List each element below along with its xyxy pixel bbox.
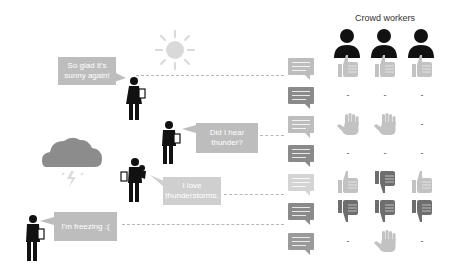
chat-message-icon bbox=[288, 145, 314, 162]
thumbs-up-icon bbox=[409, 53, 435, 79]
person-icon-1 bbox=[122, 76, 148, 121]
open-hand-icon bbox=[372, 228, 398, 254]
sun-icon bbox=[153, 28, 197, 72]
chat-message-icon bbox=[288, 87, 314, 104]
person-icon-2 bbox=[158, 120, 184, 165]
no-vote-dash: - bbox=[409, 140, 435, 166]
speech-bubble-3: I lovethunderstorms. bbox=[163, 177, 221, 205]
connector-line-4 bbox=[122, 224, 284, 225]
no-vote-dash: - bbox=[335, 82, 361, 108]
thumbs-up-icon bbox=[335, 169, 361, 195]
thumbs-up-icon bbox=[372, 53, 398, 79]
no-vote-dash: - bbox=[335, 228, 361, 254]
connector-line-3 bbox=[224, 194, 284, 195]
chat-message-icon bbox=[288, 174, 314, 191]
chat-message-icon bbox=[288, 233, 314, 250]
thumbs-down-icon bbox=[372, 169, 398, 195]
speech-bubble-4: I'm freezing :( bbox=[54, 212, 117, 241]
no-vote-dash: - bbox=[409, 228, 435, 254]
thumbs-down-icon bbox=[372, 198, 398, 224]
storm-cloud-icon bbox=[40, 133, 106, 189]
no-vote-dash: - bbox=[372, 140, 398, 166]
chat-message-icon bbox=[288, 203, 314, 220]
chat-message-icon bbox=[288, 116, 314, 133]
no-vote-dash: - bbox=[335, 140, 361, 166]
chat-message-icon bbox=[288, 58, 314, 75]
no-vote-dash: - bbox=[409, 111, 435, 137]
connector-line-2 bbox=[260, 135, 284, 136]
person-with-child-icon bbox=[120, 157, 150, 203]
no-vote-dash: - bbox=[409, 82, 435, 108]
open-hand-icon bbox=[335, 111, 361, 137]
thumbs-up-icon bbox=[409, 169, 435, 195]
thumbs-down-icon bbox=[409, 198, 435, 224]
connector-line-1 bbox=[136, 75, 284, 76]
speech-bubble-tail-4 bbox=[40, 217, 54, 227]
crowd-workers-title: Crowd workers bbox=[355, 13, 415, 23]
speech-bubble-tail-1 bbox=[114, 72, 126, 82]
no-vote-dash: - bbox=[372, 82, 398, 108]
open-hand-icon bbox=[372, 111, 398, 137]
speech-bubble-tail-3 bbox=[150, 175, 164, 187]
speech-bubble-1: So glad it'ssunny again! bbox=[58, 57, 116, 85]
speech-bubble-tail-2 bbox=[182, 125, 196, 135]
speech-bubble-2: Did I hearthunder? bbox=[196, 123, 258, 153]
thumbs-down-icon bbox=[335, 198, 361, 224]
thumbs-up-icon bbox=[335, 53, 361, 79]
